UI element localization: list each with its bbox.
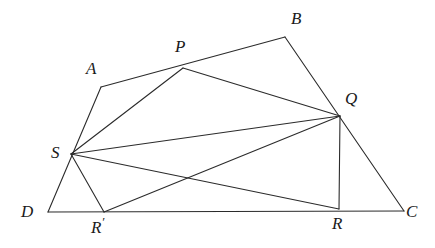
chord-SR: [71, 154, 339, 209]
chord-RprimeQ: [104, 116, 340, 212]
vertex-label-R-prime-letter: R: [91, 218, 101, 237]
vertex-label-D: D: [21, 203, 33, 220]
vertex-label-R-prime: R′: [91, 215, 104, 236]
vertex-label-R: R: [332, 215, 342, 232]
chord-SQ: [71, 116, 340, 154]
side-AB: [101, 37, 285, 87]
chord-SRprime: [71, 154, 104, 212]
side-BC: [285, 37, 404, 211]
geometry-figure: A B C D P Q R S R′: [0, 0, 435, 248]
side-CD: [48, 211, 404, 212]
vertex-label-B: B: [291, 10, 301, 27]
vertex-label-A: A: [86, 60, 96, 77]
vertex-label-C: C: [406, 203, 417, 220]
figure-canvas: [0, 0, 435, 248]
chord-QR: [339, 116, 340, 209]
vertex-label-Q: Q: [345, 90, 357, 107]
vertex-label-S: S: [51, 144, 60, 161]
chord-PQ: [183, 68, 340, 116]
segments-group: [48, 37, 404, 212]
vertex-label-P: P: [175, 38, 185, 55]
prime-mark-icon: ′: [101, 214, 104, 229]
